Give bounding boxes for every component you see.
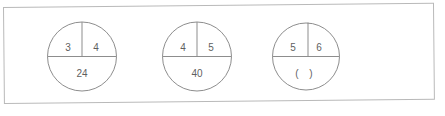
left-factor-2: 4 bbox=[172, 43, 194, 53]
right-factor-1: 4 bbox=[85, 43, 107, 53]
problem-circle-1[interactable]: 3 4 24 bbox=[47, 21, 117, 92]
circle-diagram-icon bbox=[272, 21, 340, 92]
product-3-answer-blank[interactable]: ( ) bbox=[272, 69, 340, 79]
right-factor-3: 6 bbox=[308, 43, 330, 53]
right-factor-2: 5 bbox=[200, 43, 222, 53]
problem-row: 3 4 24 4 5 40 bbox=[0, 0, 445, 116]
left-factor-1: 3 bbox=[57, 43, 79, 53]
worksheet-page: 3 4 24 4 5 40 bbox=[0, 0, 445, 116]
circle-diagram-icon bbox=[47, 21, 117, 92]
circle-diagram-icon bbox=[162, 21, 232, 92]
problem-circle-3[interactable]: 5 6 ( ) bbox=[272, 21, 340, 92]
product-1: 24 bbox=[47, 69, 117, 79]
left-factor-3: 5 bbox=[282, 43, 304, 53]
product-2: 40 bbox=[162, 69, 232, 79]
problem-circle-2[interactable]: 4 5 40 bbox=[162, 21, 232, 92]
